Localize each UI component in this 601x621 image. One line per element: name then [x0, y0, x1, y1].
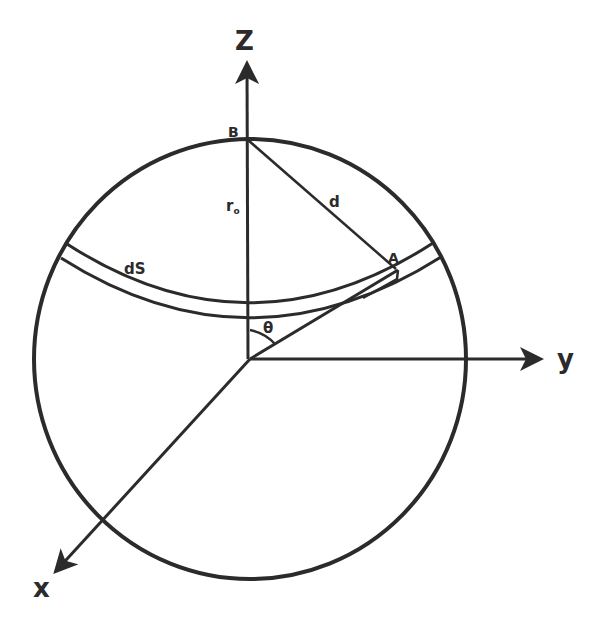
radius-subscript: o — [233, 206, 239, 216]
surface-element-label: dS — [124, 260, 146, 278]
chord-ba — [248, 140, 396, 269]
y-axis-label: y — [557, 344, 574, 374]
radial-line-oa — [250, 270, 398, 359]
angle-theta-label: θ — [263, 319, 273, 337]
radius-label: ro — [226, 197, 240, 216]
x-axis-label: x — [33, 573, 50, 603]
distance-label: d — [329, 193, 340, 211]
sphere-diagram: Z y x B A ro d dS θ — [0, 0, 601, 621]
x-axis — [56, 359, 250, 571]
z-axis-label: Z — [235, 26, 254, 56]
point-a-label: A — [388, 250, 399, 266]
point-b-label: B — [228, 124, 239, 140]
z-axis — [247, 64, 248, 359]
